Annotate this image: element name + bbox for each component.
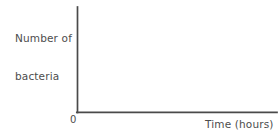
origin-tick-label: 0	[70, 114, 77, 126]
y-axis-label-line-2: bacteria	[15, 70, 72, 83]
bacteria-growth-graph-figure: Number of bacteria Time (hours) 0	[0, 0, 280, 136]
y-axis-label: Number of bacteria	[15, 7, 72, 107]
y-axis-label-line-1: Number of	[15, 32, 72, 45]
x-axis-label: Time (hours)	[205, 118, 274, 131]
